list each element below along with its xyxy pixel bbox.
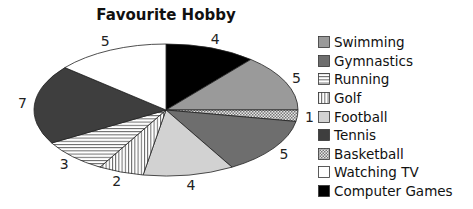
chart-legend: SwimmingGymnasticsRunningGolfFootballTen… [318,33,453,200]
legend-label: Football [334,109,387,125]
legend-label: Golf [334,90,361,106]
value-label-tennis: 7 [18,95,27,111]
legend-label: Tennis [334,127,376,143]
value-label-basketball: 1 [305,109,314,125]
legend-swatch [318,129,330,141]
legend-item-watching-tv: Watching TV [318,163,453,182]
legend-item-football: Football [318,107,453,126]
legend-item-tennis: Tennis [318,126,453,145]
value-label-watching-tv: 5 [101,33,110,49]
legend-swatch [318,55,330,67]
legend-swatch [318,73,330,85]
legend-swatch [318,148,330,160]
legend-label: Basketball [334,146,404,162]
legend-item-computer-games: Computer Games [318,182,453,201]
value-label-gymnastics: 5 [280,146,289,162]
value-label-golf: 2 [112,173,121,189]
legend-item-running: Running [318,70,453,89]
value-label-computer-games: 4 [211,31,220,47]
value-label-football: 4 [187,177,196,193]
legend-item-swimming: Swimming [318,33,453,52]
legend-label: Computer Games [334,183,453,199]
legend-label: Watching TV [334,164,419,180]
legend-swatch [318,111,330,123]
value-label-running: 3 [60,156,69,172]
legend-label: Swimming [334,34,405,50]
legend-label: Gymnastics [334,53,413,69]
legend-item-golf: Golf [318,89,453,108]
pie-slices [34,44,298,176]
legend-swatch [318,166,330,178]
legend-label: Running [334,71,389,87]
legend-item-gymnastics: Gymnastics [318,52,453,71]
pie-chart: 451542375 [0,0,320,209]
legend-item-basketball: Basketball [318,145,453,164]
legend-swatch [318,36,330,48]
legend-swatch [318,92,330,104]
value-label-swimming: 5 [292,70,301,86]
legend-swatch [318,185,330,197]
